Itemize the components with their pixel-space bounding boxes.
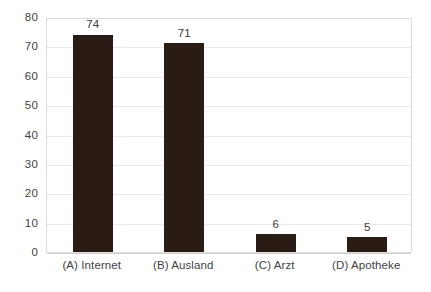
bar bbox=[256, 234, 296, 252]
y-axis-tick-label: 70 bbox=[4, 42, 38, 54]
x-axis-tick-label: (D) Apotheke bbox=[321, 260, 413, 282]
bar-value-label: 71 bbox=[178, 28, 191, 40]
bar-value-label: 6 bbox=[272, 219, 279, 231]
x-axis-tick-label: (C) Arzt bbox=[229, 260, 321, 282]
y-axis-tick-label: 10 bbox=[4, 218, 38, 230]
plot-area: 747165 bbox=[46, 18, 412, 253]
bar-group: 71 bbox=[139, 19, 231, 252]
y-axis-tick-label: 20 bbox=[4, 189, 38, 201]
bar-group: 6 bbox=[230, 19, 322, 252]
axis-baseline bbox=[47, 253, 411, 254]
bar-value-label: 74 bbox=[86, 19, 99, 31]
bar-value-label: 5 bbox=[364, 222, 371, 234]
bar bbox=[164, 43, 204, 252]
x-axis: (A) Internet(B) Ausland(C) Arzt(D) Apoth… bbox=[46, 260, 412, 282]
y-axis-tick-label: 60 bbox=[4, 71, 38, 83]
y-axis-tick-label: 40 bbox=[4, 130, 38, 142]
y-axis-tick-label: 30 bbox=[4, 159, 38, 171]
bar bbox=[347, 237, 387, 252]
bar-chart-figure: 01020304050607080 747165 (A) Internet(B)… bbox=[0, 0, 431, 292]
bar-group: 5 bbox=[322, 19, 414, 252]
y-axis-tick-label: 0 bbox=[4, 247, 38, 259]
x-axis-tick-label: (A) Internet bbox=[46, 260, 138, 282]
bar-group: 74 bbox=[47, 19, 139, 252]
y-axis-tick-label: 50 bbox=[4, 100, 38, 112]
y-axis-tick-label: 80 bbox=[4, 12, 38, 24]
bar bbox=[73, 35, 113, 252]
x-axis-tick-label: (B) Ausland bbox=[138, 260, 230, 282]
